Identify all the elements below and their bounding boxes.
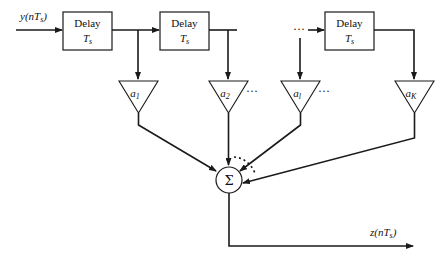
- sum-input-l: [240, 113, 301, 171]
- svg-text:Delay: Delay: [171, 17, 198, 29]
- output-arrow: [229, 193, 413, 246]
- svg-text:Delay: Delay: [336, 17, 363, 29]
- tap-line-K: [374, 30, 414, 79]
- sum-input-K: [243, 113, 415, 183]
- summer-node: Σ: [216, 167, 242, 193]
- input-label: y(nTs): [19, 10, 47, 24]
- delay-block-3: Delay Ts: [325, 12, 374, 50]
- sum-input-1: [139, 113, 217, 171]
- ellipsis-gain-l: ···: [318, 84, 330, 98]
- ellipsis-gain-2: ···: [246, 84, 258, 98]
- output-label: z(nTs): [369, 226, 397, 240]
- gain-al: al: [281, 81, 320, 113]
- gain-a2: a2: [209, 81, 248, 113]
- svg-text:Σ: Σ: [224, 173, 233, 188]
- ellipsis-top: ···: [293, 22, 305, 36]
- gain-aK: aK: [395, 81, 434, 113]
- gain-a1: a1: [119, 81, 158, 113]
- delay-block-1: Delay Ts: [63, 12, 112, 50]
- delay-block-2: Delay Ts: [160, 12, 209, 50]
- svg-text:Delay: Delay: [74, 17, 101, 29]
